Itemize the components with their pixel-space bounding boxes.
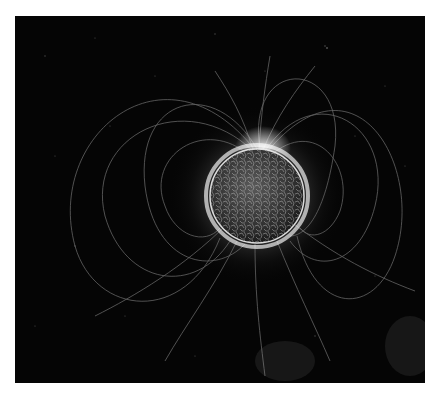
star-visualization [15, 16, 425, 383]
star-surface [210, 149, 304, 243]
photo-frame: Visualization of a star with magnetic fi… [15, 16, 425, 383]
